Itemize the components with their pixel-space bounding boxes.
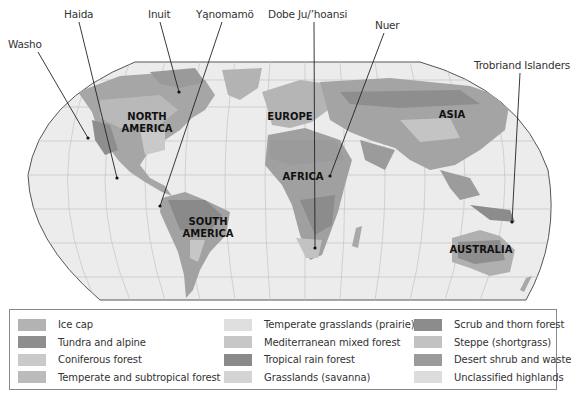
swatch-desert	[414, 354, 442, 366]
legend-item: Temperate and subtropical forest	[18, 369, 220, 387]
legend-label: Tropical rain forest	[264, 354, 355, 365]
continent-label-australia: AUSTRALIA	[450, 244, 513, 255]
legend-label: Unclassified highlands	[454, 372, 564, 383]
swatch-highlands	[414, 371, 442, 383]
swatch-ice-cap	[18, 319, 46, 331]
legend-label: Tundra and alpine	[58, 337, 146, 348]
legend-label: Ice cap	[58, 319, 93, 330]
legend-column-1: Ice cap Tundra and alpine Coniferous for…	[18, 316, 220, 386]
swatch-tundra	[18, 336, 46, 348]
swatch-temperate-forest	[18, 371, 46, 383]
annotation-yanomamo: Yąnomamö	[196, 8, 254, 20]
swatch-mediterranean	[224, 336, 252, 348]
legend-item: Mediterranean mixed forest	[224, 334, 415, 352]
legend-label: Temperate and subtropical forest	[58, 372, 220, 383]
legend-item: Unclassified highlands	[414, 369, 571, 387]
swatch-prairie	[224, 319, 252, 331]
annotation-inuit: Inuit	[148, 8, 170, 20]
legend-label: Temperate grasslands (prairie)	[264, 319, 415, 330]
annotation-nuer: Nuer	[375, 19, 400, 31]
legend-label: Desert shrub and waste	[454, 354, 571, 365]
legend-label: Grasslands (savanna)	[264, 372, 370, 383]
legend-item: Temperate grasslands (prairie)	[224, 316, 415, 334]
legend-label: Steppe (shortgrass)	[454, 337, 551, 348]
continent-label-south-america: SOUTHAMERICA	[182, 216, 233, 239]
legend-item: Tundra and alpine	[18, 334, 220, 352]
legend-item: Steppe (shortgrass)	[414, 334, 571, 352]
continent-label-north-america: NORTHAMERICA	[121, 111, 172, 134]
legend-label: Mediterranean mixed forest	[264, 337, 400, 348]
legend-item: Desert shrub and waste	[414, 351, 571, 369]
swatch-savanna	[224, 371, 252, 383]
biome-legend: Ice cap Tundra and alpine Coniferous for…	[9, 309, 557, 390]
legend-item: Scrub and thorn forest	[414, 316, 571, 334]
legend-column-2: Temperate grasslands (prairie) Mediterra…	[224, 316, 415, 386]
continent-label-africa: AFRICA	[282, 171, 323, 182]
continent-label-europe: EUROPE	[267, 111, 312, 122]
swatch-scrub	[414, 319, 442, 331]
swatch-rain-forest	[224, 354, 252, 366]
legend-item: Ice cap	[18, 316, 220, 334]
legend-item: Coniferous forest	[18, 351, 220, 369]
legend-column-3: Scrub and thorn forest Steppe (shortgras…	[414, 316, 571, 386]
legend-label: Coniferous forest	[58, 354, 142, 365]
swatch-steppe	[414, 336, 442, 348]
annotation-washo: Washo	[8, 38, 42, 50]
annotation-haida: Haida	[64, 8, 93, 20]
annotation-trobriand-islanders: Trobriand Islanders	[474, 59, 570, 71]
legend-item: Grasslands (savanna)	[224, 369, 415, 387]
swatch-coniferous	[18, 354, 46, 366]
annotation-dobe-juhoansi: Dobe Ju/’hoansi	[268, 8, 347, 20]
legend-label: Scrub and thorn forest	[454, 319, 564, 330]
continent-label-asia: ASIA	[439, 109, 466, 120]
legend-item: Tropical rain forest	[224, 351, 415, 369]
